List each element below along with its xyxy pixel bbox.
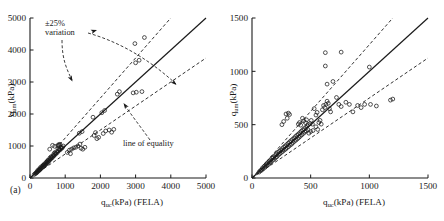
annotation-arrows-a xyxy=(62,28,178,140)
x-axis-title-b: quc(kPa) (FELA) xyxy=(323,197,385,208)
data-point xyxy=(369,103,373,107)
variation-line xyxy=(252,18,393,178)
x-tick-label: 0 xyxy=(250,181,255,191)
data-point xyxy=(389,98,393,102)
x-axis-title-a: quc(kPa) (FELA) xyxy=(101,197,163,208)
annotation-arrowhead xyxy=(68,75,75,82)
svg-text:quc(kPa) (FELA): quc(kPa) (FELA) xyxy=(323,197,385,208)
y-tick-label: 1500 xyxy=(230,13,249,23)
x-tick-label: 2000 xyxy=(91,181,110,191)
variation-line xyxy=(30,58,206,178)
axes-b: 050010001500050010001500 xyxy=(230,13,438,191)
data-point xyxy=(311,129,315,133)
data-point xyxy=(143,36,147,40)
data-point xyxy=(115,92,119,96)
data-point xyxy=(280,123,284,127)
data-point xyxy=(48,147,52,151)
x-tick-label: 3000 xyxy=(126,181,145,191)
data-point xyxy=(331,80,335,84)
x-tick-label: 1000 xyxy=(360,181,379,191)
data-points-b xyxy=(257,50,395,174)
data-point xyxy=(374,104,378,108)
data-point xyxy=(137,58,141,62)
data-point xyxy=(285,116,289,120)
data-point xyxy=(359,106,363,110)
y-axis-title-b: qum(kPa) xyxy=(228,84,239,117)
data-point xyxy=(351,110,355,114)
x-axis-title-tail-b: (kPa) (FELA) xyxy=(334,197,385,207)
y-axis-title-sub-b: um xyxy=(232,104,239,112)
data-point xyxy=(367,65,371,69)
data-point xyxy=(134,61,138,65)
x-tick-label: 1500 xyxy=(419,181,438,191)
y-tick-label: 0 xyxy=(21,173,26,183)
chart-panel-a: 0100020003000400050000100020003000400050… xyxy=(0,0,222,221)
data-point xyxy=(118,90,122,94)
data-point xyxy=(321,108,325,112)
annotation-arrowhead xyxy=(91,28,98,34)
annotation-arrowhead xyxy=(122,102,129,109)
data-point xyxy=(107,128,111,132)
y-axis-title-tail-b: (kPa) xyxy=(228,84,238,104)
data-point xyxy=(339,50,343,54)
data-point xyxy=(339,105,343,109)
y-tick-label: 4000 xyxy=(8,45,27,55)
data-point xyxy=(363,103,367,107)
variation-line xyxy=(30,18,171,178)
data-point xyxy=(112,127,116,131)
annotation-variation-line1-a: ±25% xyxy=(45,19,65,28)
data-point xyxy=(323,64,327,68)
data-point xyxy=(337,103,341,107)
chart-panel-b: 050010001500050010001500 quc(kPa) (FELA)… xyxy=(222,0,444,221)
x-tick-label: 4000 xyxy=(162,181,181,191)
y-tick-label: 5000 xyxy=(8,13,27,23)
annotation-variation-line2-a: variation xyxy=(45,28,76,37)
annotation-leader-line xyxy=(62,40,72,80)
scatter-plot-a: 0100020003000400050000100020003000400050… xyxy=(0,0,222,221)
scatter-plot-b: 050010001500050010001500 quc(kPa) (FELA)… xyxy=(222,0,444,221)
data-point xyxy=(323,51,327,55)
axes-a: 0100020003000400050000100020003000400050… xyxy=(8,13,216,191)
x-tick-label: 500 xyxy=(304,181,318,191)
y-axis-title-tail-a: (kPa) xyxy=(6,84,16,104)
svg-text:quc(kPa) (FELA): quc(kPa) (FELA) xyxy=(101,197,163,208)
y-tick-label: 1000 xyxy=(230,67,249,77)
annotation-leader-line xyxy=(88,33,176,84)
y-tick-label: 0 xyxy=(243,173,248,183)
x-tick-label: 5000 xyxy=(197,181,216,191)
data-point xyxy=(391,97,395,101)
x-axis-title-tail-a: (kPa) (FELA) xyxy=(112,197,163,207)
data-point xyxy=(344,100,348,104)
data-point xyxy=(140,90,144,94)
y-tick-label: 1000 xyxy=(8,141,27,151)
figure-container: 0100020003000400050000100020003000400050… xyxy=(0,0,444,221)
subplot-label-a: (a) xyxy=(10,185,21,195)
annotation-equality-a: line of equality xyxy=(123,139,175,148)
annotation-variation-a: ±25% variation xyxy=(45,19,76,37)
annotation-leader-line xyxy=(124,104,150,140)
x-tick-label: 1000 xyxy=(56,181,75,191)
variation-line xyxy=(252,58,428,178)
data-point xyxy=(335,96,339,100)
y-tick-label: 500 xyxy=(234,120,248,130)
annotation-equality-label-a: line of equality xyxy=(123,139,175,148)
data-point xyxy=(347,103,351,107)
x-tick-label: 0 xyxy=(28,181,33,191)
data-point xyxy=(91,115,95,119)
data-point xyxy=(133,42,137,46)
svg-text:qum(kPa): qum(kPa) xyxy=(228,84,239,117)
data-point xyxy=(325,82,329,86)
y-axis-title-sub-a: um xyxy=(10,104,17,112)
